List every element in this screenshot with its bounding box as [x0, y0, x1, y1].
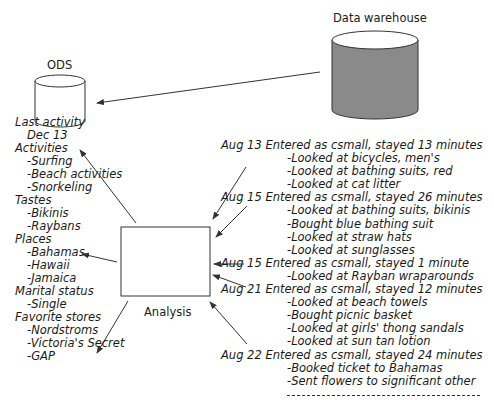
session-header: Aug 15 Entered as csmall, stayed 1 minut… [221, 257, 482, 270]
data-warehouse-label: Data warehouse [333, 11, 427, 25]
session-item: -Looked at bathing suits, bikinis [221, 204, 482, 217]
clickstream-log: Aug 13 Entered as csmall, stayed 13 minu… [221, 139, 482, 388]
analysis-box [121, 227, 210, 296]
data-warehouse-cylinder-icon [332, 31, 418, 119]
session-item: -Bought blue bathing suit [221, 218, 482, 231]
warehouse-to-ods-arrow [97, 72, 320, 103]
customer-profile: Last activity Dec 13 Activities -Surfing… [15, 116, 124, 363]
continuation-dashed-line [287, 395, 480, 396]
session-item: -Looked at straw hats [221, 231, 482, 244]
session-item: -Booked ticket to Bahamas [221, 362, 482, 375]
session-item: -Sent flowers to significant other [221, 375, 482, 388]
ods-label: ODS [47, 58, 72, 72]
profile-item: -GAP [15, 350, 124, 363]
session-header: Aug 22 Entered as csmall, stayed 24 minu… [221, 349, 482, 362]
analysis-label: Analysis [144, 305, 191, 319]
session-item: -Looked at sun tan lotion [221, 335, 482, 348]
session-item: -Looked at sunglasses [221, 244, 482, 257]
